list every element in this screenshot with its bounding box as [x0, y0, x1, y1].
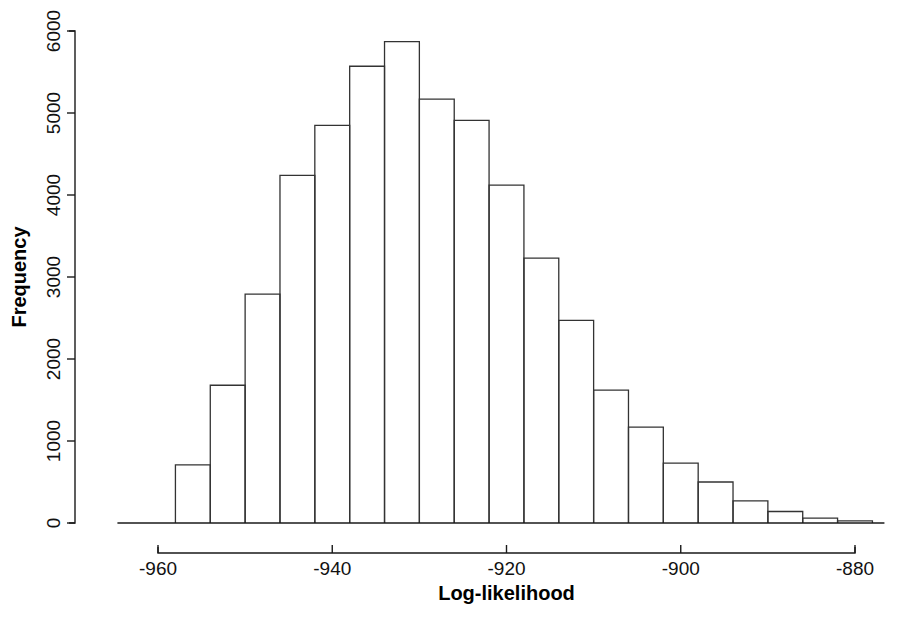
- histogram-figure: 0100020003000400050006000 -960-940-920-9…: [0, 0, 897, 628]
- x-axis-title: Log-likelihood: [438, 582, 575, 604]
- histogram-bar: [663, 463, 698, 523]
- histogram-bar: [524, 258, 559, 523]
- histogram-bar: [803, 518, 838, 523]
- y-axis: 0100020003000400050006000: [43, 10, 75, 528]
- histogram-bar: [175, 465, 210, 523]
- histogram-bar: [350, 66, 385, 523]
- histogram-bars: [175, 42, 872, 523]
- x-tick-label: -940: [313, 558, 351, 579]
- y-tick-marks: [67, 31, 75, 523]
- histogram-bar: [210, 385, 245, 523]
- histogram-bar: [594, 390, 629, 523]
- y-axis-title: Frequency: [8, 226, 30, 328]
- y-tick-label: 1000: [43, 420, 64, 462]
- histogram-bar: [454, 120, 489, 523]
- x-tick-marks: [158, 545, 855, 553]
- x-axis: -960-940-920-900-880: [139, 545, 874, 579]
- y-tick-label: 2000: [43, 338, 64, 380]
- plot-area: 0100020003000400050006000 -960-940-920-9…: [0, 0, 897, 628]
- x-tick-labels: -960-940-920-900-880: [139, 558, 874, 579]
- histogram-bar: [698, 482, 733, 523]
- chart-canvas: 0100020003000400050006000 -960-940-920-9…: [0, 0, 897, 628]
- x-tick-label: -900: [662, 558, 700, 579]
- y-tick-label: 6000: [43, 10, 64, 52]
- y-tick-label: 0: [43, 518, 64, 529]
- y-tick-labels: 0100020003000400050006000: [43, 10, 64, 528]
- histogram-bar: [280, 175, 315, 523]
- histogram-bar: [315, 125, 350, 523]
- histogram-bar: [768, 512, 803, 523]
- y-tick-label: 5000: [43, 92, 64, 134]
- histogram-bar: [559, 320, 594, 523]
- y-tick-label: 3000: [43, 256, 64, 298]
- x-tick-label: -880: [836, 558, 874, 579]
- histogram-bar: [628, 427, 663, 523]
- histogram-bar: [733, 501, 768, 523]
- x-tick-label: -920: [487, 558, 525, 579]
- histogram-bar: [245, 294, 280, 523]
- y-tick-label: 4000: [43, 174, 64, 216]
- histogram-bar: [489, 185, 524, 523]
- x-tick-label: -960: [139, 558, 177, 579]
- histogram-bar: [419, 99, 454, 523]
- histogram-bar: [385, 42, 420, 523]
